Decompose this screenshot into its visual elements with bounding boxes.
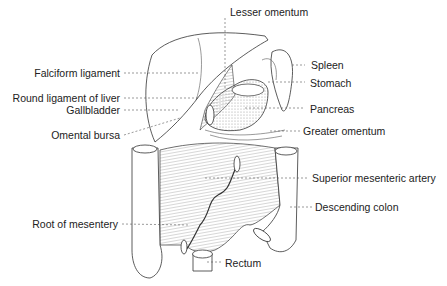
label-gallbladder: Gallbladder bbox=[0, 104, 120, 116]
label-greater-omentum: Greater omentum bbox=[303, 125, 385, 137]
label-superior-mesenteric-artery: Superior mesenteric artery bbox=[312, 172, 436, 184]
label-descending-colon: Descending colon bbox=[315, 201, 398, 213]
label-round-ligament-of-liver: Round ligament of liver bbox=[0, 92, 120, 104]
label-pancreas: Pancreas bbox=[310, 103, 354, 115]
label-omental-bursa: Omental bursa bbox=[0, 129, 120, 141]
label-rectum: Rectum bbox=[225, 257, 261, 269]
anatomy-diagram: Lesser omentum Spleen Falciform ligament… bbox=[0, 0, 447, 286]
anatomy-drawing bbox=[0, 0, 447, 286]
ascending-colon bbox=[132, 148, 162, 278]
spleen bbox=[271, 50, 293, 111]
label-spleen: Spleen bbox=[311, 59, 344, 71]
label-root-of-mesentery: Root of mesentery bbox=[0, 218, 118, 230]
label-falciform-ligament: Falciform ligament bbox=[0, 67, 120, 79]
label-lesser-omentum: Lesser omentum bbox=[230, 6, 308, 18]
label-stomach: Stomach bbox=[310, 77, 351, 89]
